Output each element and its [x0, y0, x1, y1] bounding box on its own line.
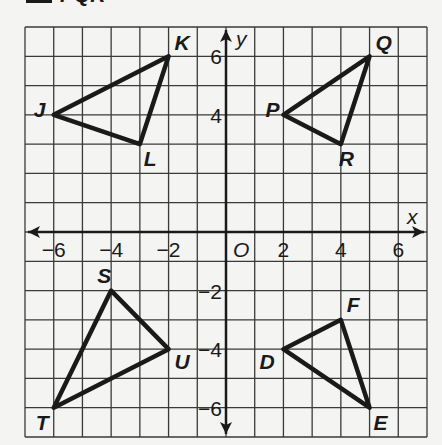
x-tick-label: −6 — [42, 238, 66, 261]
vertex-label-j: J — [34, 98, 47, 121]
vertex-label-r: R — [339, 147, 355, 170]
coordinate-plane: PQRxyO−6−4−224664−2−4−6JKLPQRSTUDEF — [0, 0, 442, 445]
vertex-label-u: U — [175, 350, 191, 373]
vertex-label-e: E — [374, 411, 389, 434]
y-tick-label: −2 — [198, 280, 222, 303]
vertex-label-p: P — [265, 98, 280, 121]
heading-text: PQR — [60, 0, 106, 6]
triangle-def — [283, 320, 369, 408]
x-tick-label: 4 — [335, 238, 347, 261]
x-tick-label: −4 — [99, 238, 123, 261]
vertex-label-s: S — [97, 264, 111, 287]
vertex-label-d: D — [259, 350, 274, 373]
x-tick-label: −2 — [157, 238, 181, 261]
vertex-label-t: T — [36, 411, 51, 434]
vertex-label-l: L — [144, 147, 157, 170]
vertex-label-q: Q — [376, 31, 392, 54]
x-axis-label: x — [406, 205, 419, 228]
origin-label: O — [233, 238, 249, 261]
y-tick-label: 6 — [210, 45, 222, 68]
heading-underline — [26, 0, 52, 3]
x-tick-label: 6 — [392, 238, 404, 261]
y-tick-label: −6 — [198, 397, 222, 420]
y-tick-label: 4 — [210, 104, 222, 127]
vertex-label-f: F — [347, 293, 361, 316]
y-tick-label: −4 — [198, 338, 222, 361]
vertex-label-k: K — [175, 31, 192, 54]
x-tick-label: 2 — [278, 238, 290, 261]
y-axis-label: y — [234, 27, 248, 50]
triangle-pqr — [283, 56, 369, 144]
